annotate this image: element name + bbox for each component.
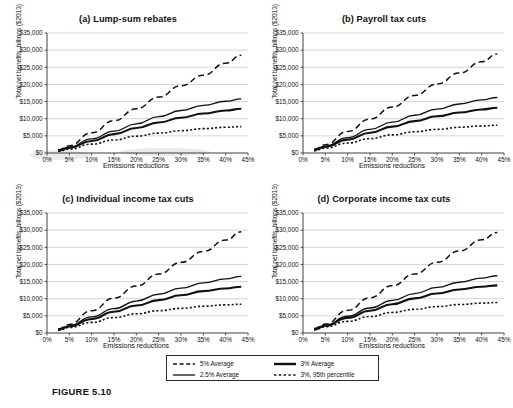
svg-text:5%: 5% bbox=[321, 156, 331, 163]
svg-text:$5,000: $5,000 bbox=[279, 312, 299, 319]
svg-text:45%: 45% bbox=[498, 156, 511, 163]
series-line bbox=[58, 127, 241, 152]
svg-text:0%: 0% bbox=[42, 336, 52, 343]
svg-text:$20,000: $20,000 bbox=[275, 261, 299, 268]
svg-text:35%: 35% bbox=[453, 336, 466, 343]
svg-text:15%: 15% bbox=[364, 336, 377, 343]
svg-text:$25,000: $25,000 bbox=[19, 244, 43, 251]
svg-text:$15,000: $15,000 bbox=[275, 278, 299, 285]
svg-text:0%: 0% bbox=[298, 156, 308, 163]
svg-text:$20,000: $20,000 bbox=[19, 81, 43, 88]
dotted-line-icon bbox=[273, 371, 297, 379]
series-line bbox=[314, 276, 497, 329]
svg-text:35%: 35% bbox=[197, 336, 210, 343]
svg-text:20%: 20% bbox=[130, 336, 143, 343]
panel-a-plot: $0$5,000$10,000$15,000$20,000$25,000$30,… bbox=[0, 0, 256, 180]
legend-5-average: 5% Average bbox=[172, 360, 273, 368]
svg-text:40%: 40% bbox=[475, 336, 488, 343]
svg-text:$30,000: $30,000 bbox=[275, 226, 299, 233]
svg-text:5%: 5% bbox=[65, 156, 75, 163]
svg-text:$30,000: $30,000 bbox=[275, 46, 299, 53]
panel-b-plot: $0$5,000$10,000$15,000$20,000$25,000$30,… bbox=[256, 0, 512, 180]
svg-text:$20,000: $20,000 bbox=[19, 261, 43, 268]
svg-text:30%: 30% bbox=[175, 156, 188, 163]
svg-text:5%: 5% bbox=[321, 336, 331, 343]
svg-text:$35,000: $35,000 bbox=[19, 29, 43, 36]
svg-text:$5,000: $5,000 bbox=[279, 132, 299, 139]
svg-text:10%: 10% bbox=[85, 336, 98, 343]
chart-legend: 5% Average 3% Average 2.5% Average 3% bbox=[166, 355, 379, 381]
svg-text:$25,000: $25,000 bbox=[275, 64, 299, 71]
series-line bbox=[314, 302, 497, 329]
svg-text:45%: 45% bbox=[242, 156, 255, 163]
solid-line-icon bbox=[172, 371, 196, 379]
legend-label: 2.5% Average bbox=[200, 371, 239, 378]
series-line bbox=[58, 109, 241, 151]
svg-text:$10,000: $10,000 bbox=[275, 295, 299, 302]
svg-text:30%: 30% bbox=[431, 336, 444, 343]
svg-text:$5,000: $5,000 bbox=[23, 132, 43, 139]
panel-c-plot: $0$5,000$10,000$15,000$20,000$25,000$30,… bbox=[0, 180, 256, 360]
svg-text:20%: 20% bbox=[130, 156, 143, 163]
panel-c-individual-income-tax-cuts: (c) Individual income tax cuts Total net… bbox=[0, 180, 256, 360]
svg-text:40%: 40% bbox=[219, 336, 232, 343]
svg-text:$5,000: $5,000 bbox=[23, 312, 43, 319]
svg-text:$30,000: $30,000 bbox=[19, 226, 43, 233]
svg-text:$15,000: $15,000 bbox=[19, 98, 43, 105]
svg-text:15%: 15% bbox=[108, 156, 121, 163]
series-line bbox=[314, 108, 497, 150]
svg-text:25%: 25% bbox=[408, 336, 421, 343]
svg-text:$35,000: $35,000 bbox=[275, 209, 299, 216]
dashed-line-icon bbox=[172, 360, 196, 368]
svg-text:0%: 0% bbox=[42, 156, 52, 163]
svg-text:0%: 0% bbox=[298, 336, 308, 343]
legend-label: 5% Average bbox=[200, 360, 234, 367]
svg-text:$10,000: $10,000 bbox=[19, 295, 43, 302]
series-line bbox=[58, 232, 241, 329]
legend-row-2: 2.5% Average 3%, 95th percentile bbox=[172, 369, 373, 380]
legend-row-1: 5% Average 3% Average bbox=[172, 358, 373, 369]
panel-b-payroll-tax-cuts: (b) Payroll tax cuts Total net benefits,… bbox=[256, 0, 512, 180]
series-line bbox=[58, 287, 241, 330]
svg-text:$15,000: $15,000 bbox=[19, 278, 43, 285]
series-line bbox=[314, 125, 497, 150]
svg-text:40%: 40% bbox=[475, 156, 488, 163]
svg-text:20%: 20% bbox=[386, 336, 399, 343]
panel-d-corporate-income-tax-cuts: (d) Corporate income tax cuts Total net … bbox=[256, 180, 512, 360]
svg-text:10%: 10% bbox=[341, 156, 354, 163]
panel-d-plot: $0$5,000$10,000$15,000$20,000$25,000$30,… bbox=[256, 180, 512, 360]
svg-text:$25,000: $25,000 bbox=[19, 64, 43, 71]
svg-text:45%: 45% bbox=[498, 336, 511, 343]
series-line bbox=[58, 304, 241, 330]
svg-text:25%: 25% bbox=[152, 336, 165, 343]
legend-label: 3% Average bbox=[301, 360, 335, 367]
svg-text:30%: 30% bbox=[175, 336, 188, 343]
figure-5-10: (a) Lump-sum rebates Total net benefits,… bbox=[0, 0, 513, 408]
svg-text:$30,000: $30,000 bbox=[19, 46, 43, 53]
legend-2-5-average: 2.5% Average bbox=[172, 371, 273, 379]
legend-3-95th-percentile: 3%, 95th percentile bbox=[273, 371, 374, 379]
legend-3-average: 3% Average bbox=[273, 360, 374, 368]
svg-text:45%: 45% bbox=[242, 336, 255, 343]
svg-text:20%: 20% bbox=[386, 156, 399, 163]
svg-text:$10,000: $10,000 bbox=[275, 115, 299, 122]
series-line bbox=[314, 285, 497, 329]
svg-text:10%: 10% bbox=[85, 156, 98, 163]
svg-text:10%: 10% bbox=[341, 336, 354, 343]
panel-a-lump-sum-rebates: (a) Lump-sum rebates Total net benefits,… bbox=[0, 0, 256, 180]
svg-text:$15,000: $15,000 bbox=[275, 98, 299, 105]
svg-text:35%: 35% bbox=[197, 156, 210, 163]
svg-text:15%: 15% bbox=[364, 156, 377, 163]
svg-text:15%: 15% bbox=[108, 336, 121, 343]
svg-text:$25,000: $25,000 bbox=[275, 244, 299, 251]
figure-caption: FIGURE 5.10 bbox=[52, 386, 112, 397]
svg-text:$35,000: $35,000 bbox=[275, 29, 299, 36]
svg-text:30%: 30% bbox=[431, 156, 444, 163]
svg-text:25%: 25% bbox=[152, 156, 165, 163]
legend-label: 3%, 95th percentile bbox=[301, 371, 355, 378]
svg-text:$10,000: $10,000 bbox=[19, 115, 43, 122]
thick-solid-line-icon bbox=[273, 360, 297, 368]
svg-text:$35,000: $35,000 bbox=[19, 209, 43, 216]
svg-text:35%: 35% bbox=[453, 156, 466, 163]
svg-text:$20,000: $20,000 bbox=[275, 81, 299, 88]
